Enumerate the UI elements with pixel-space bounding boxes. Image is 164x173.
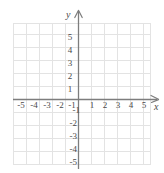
x-tick-label-5: 5	[138, 101, 150, 110]
x-tick-label-4: 4	[125, 101, 137, 110]
y-tick-label--3: -3	[63, 132, 77, 141]
y-tick-label-5: 5	[64, 33, 76, 42]
y-tick-label-4: 4	[64, 46, 76, 55]
y-tick-label--4: -4	[63, 145, 77, 154]
x-tick-label-1: 1	[86, 101, 98, 110]
vertical-gridlines	[14, 23, 151, 165]
x-tick-label-2: 2	[99, 101, 111, 110]
x-tick-label--2: -2	[54, 101, 66, 110]
y-tick-label--2: -2	[63, 119, 77, 128]
x-tick-label--4: -4	[28, 101, 40, 110]
x-tick-label--5: -5	[15, 101, 27, 110]
y-tick-label-1: 1	[64, 85, 76, 94]
y-tick-label-2: 2	[64, 72, 76, 81]
coordinate-grid-figure: y x -5 -4 -3 -2 -1 1 2 3 4 5 5 4 3 2 1 -…	[0, 0, 164, 173]
y-tick-label--1: -1	[66, 106, 80, 115]
grid-and-axes	[0, 0, 164, 173]
x-tick-label-3: 3	[112, 101, 124, 110]
x-axis-label: x	[154, 102, 158, 112]
x-tick-label--3: -3	[41, 101, 53, 110]
y-tick-label--5: -5	[63, 158, 77, 167]
y-axis-label: y	[66, 10, 70, 20]
y-tick-label-3: 3	[64, 59, 76, 68]
